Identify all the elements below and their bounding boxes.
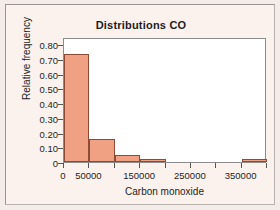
x-axis-tick	[114, 163, 115, 168]
y-axis-tick	[58, 148, 63, 149]
y-axis-tick-label: 0.30	[10, 113, 58, 124]
y-axis-labels: 00.100.200.300.400.500.600.700.80	[6, 5, 58, 204]
y-axis-title: Relative frequency	[21, 0, 32, 121]
screenshot-root: Distributions CO 00.100.200.300.400.500.…	[0, 0, 280, 210]
x-axis-tick-label: 50000	[75, 170, 101, 181]
y-axis-tick	[58, 89, 63, 90]
y-axis-tick-label: 0.70	[10, 55, 58, 66]
y-axis-tick-label: 0.60	[10, 69, 58, 80]
y-axis-tick-label: 0.20	[10, 128, 58, 139]
histogram-bar	[64, 54, 89, 162]
x-axis-tick	[165, 163, 166, 168]
figure-frame: Distributions CO 00.100.200.300.400.500.…	[5, 4, 275, 205]
x-axis-tick-label: 0	[60, 170, 65, 181]
y-axis-tick	[58, 119, 63, 120]
y-axis-tick-label: 0.80	[10, 40, 58, 51]
y-axis-tick-label: 0.40	[10, 99, 58, 110]
histogram-bars	[64, 39, 265, 162]
y-axis-tick	[58, 45, 63, 46]
x-axis-tick-label: 150000	[123, 170, 155, 181]
y-axis-tick-label: 0.50	[10, 84, 58, 95]
x-axis-tick	[63, 163, 64, 168]
x-axis-tick	[241, 163, 242, 168]
plot-area	[63, 38, 266, 163]
y-axis-tick-label: 0.10	[10, 143, 58, 154]
y-axis-tick	[58, 60, 63, 61]
x-axis-tick-label: 250000	[174, 170, 206, 181]
y-axis-tick	[58, 75, 63, 76]
y-axis-tick	[58, 134, 63, 135]
x-axis-tick	[139, 163, 140, 168]
x-axis-tick	[190, 163, 191, 168]
y-axis-tick-label: 0	[10, 158, 58, 169]
x-axis-tick	[88, 163, 89, 168]
x-axis-title: Carbon monoxide	[63, 186, 266, 197]
y-axis-tick	[58, 104, 63, 105]
x-axis-tick	[266, 163, 267, 168]
x-axis-tick-label: 350000	[225, 170, 257, 181]
histogram-bar	[242, 159, 267, 162]
x-axis-tick	[215, 163, 216, 168]
histogram-bar	[89, 139, 114, 162]
histogram-bar	[140, 159, 165, 162]
histogram-bar	[115, 155, 140, 162]
